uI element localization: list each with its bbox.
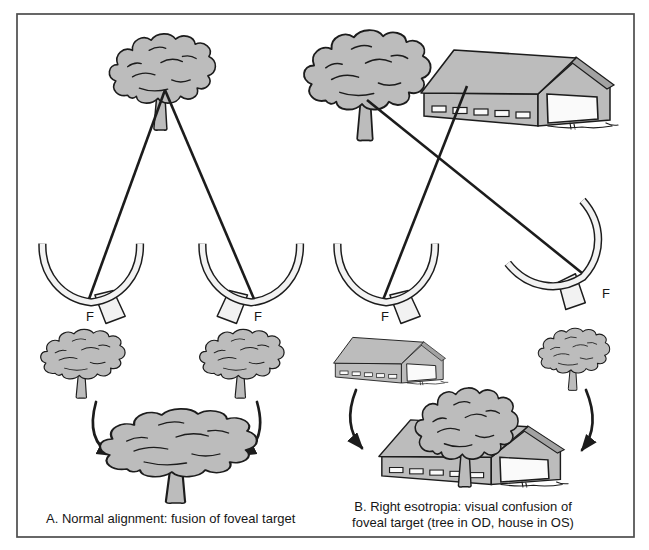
panel-b-caption-line1: B. Right esotropia: visual confusion of xyxy=(354,499,572,514)
figure-page: F F A. Normal alignment: fusion of fovea… xyxy=(0,0,649,550)
panel-a-caption: A. Normal alignment: fusion of foveal ta… xyxy=(46,511,296,526)
fovea-label: F xyxy=(602,286,610,301)
strabismus-figure: F F A. Normal alignment: fusion of fovea… xyxy=(0,0,649,550)
fovea-label: F xyxy=(254,309,262,324)
fovea-label: F xyxy=(86,309,94,324)
fovea-label: F xyxy=(381,309,389,324)
panel-b-caption-line2: foveal target (tree in OD, house in OS) xyxy=(352,515,574,530)
